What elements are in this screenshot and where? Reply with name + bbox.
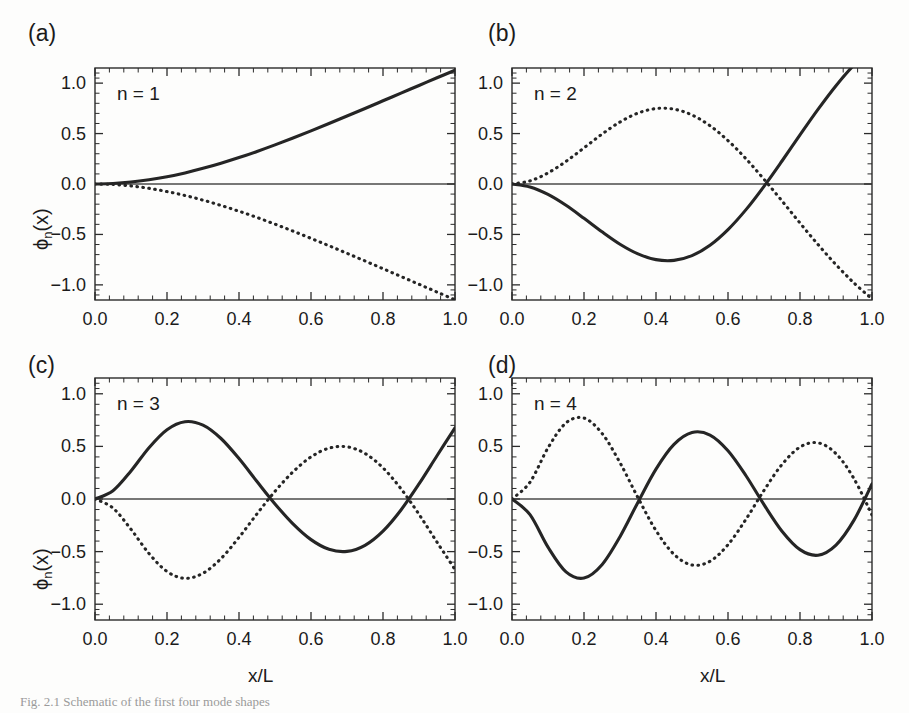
panel-c-plot: 0.00.20.40.60.81.01.00.50.0−0.5−1.0n = 3 — [0, 340, 460, 670]
mode-number-annotation: n = 3 — [117, 393, 160, 414]
curve-solid — [512, 432, 872, 579]
y-tick-label: 0.5 — [478, 436, 503, 456]
x-tick-label: 0.4 — [643, 309, 668, 329]
mode-number-annotation: n = 4 — [534, 393, 577, 414]
x-tick-label: 1.0 — [859, 629, 884, 649]
curve-solid — [512, 48, 872, 260]
x-tick-label: 0.6 — [298, 309, 323, 329]
phi-subscript: n — [40, 232, 55, 239]
curve-dotted — [512, 417, 872, 565]
y-tick-label: −1.0 — [467, 594, 503, 614]
phi-argument: (x) — [30, 548, 52, 571]
y-tick-label: −0.5 — [50, 542, 86, 562]
panel-b-label: (b) — [488, 20, 516, 47]
panel-d-label: (d) — [488, 352, 516, 379]
mode-number-annotation: n = 2 — [534, 83, 577, 104]
phi-symbol: ϕ — [30, 239, 52, 250]
panel-a-ylabel: ϕn(x) — [30, 208, 55, 250]
x-tick-label: 0.8 — [370, 629, 395, 649]
x-tick-label: 0.8 — [370, 309, 395, 329]
x-tick-label: 0.6 — [715, 629, 740, 649]
x-tick-label: 0.4 — [226, 309, 251, 329]
x-tick-label: 0.2 — [571, 309, 596, 329]
x-tick-label: 0.6 — [298, 629, 323, 649]
y-tick-label: −1.0 — [50, 275, 86, 295]
phi-argument: (x) — [30, 208, 52, 231]
y-tick-label: 0.0 — [478, 174, 503, 194]
figure-caption: Fig. 2.1 Schematic of the first four mod… — [20, 694, 270, 713]
y-tick-label: −1.0 — [467, 275, 503, 295]
y-tick-label: 0.0 — [478, 489, 503, 509]
panel-c-xlabel: x/L — [248, 665, 273, 687]
panel-c-ylabel: ϕn(x) — [30, 548, 55, 590]
phi-subscript: n — [40, 572, 55, 579]
y-tick-label: 1.0 — [61, 73, 86, 93]
curve-dotted — [95, 184, 455, 300]
x-tick-label: 0.8 — [787, 629, 812, 649]
panel-c-label: (c) — [28, 352, 55, 379]
panel-d: (d) 0.00.20.40.60.81.01.00.50.0−0.5−1.0n… — [450, 340, 909, 670]
y-tick-label: 1.0 — [478, 73, 503, 93]
x-tick-label: 0.0 — [82, 629, 107, 649]
panel-d-plot: 0.00.20.40.60.81.01.00.50.0−0.5−1.0n = 4 — [450, 340, 909, 670]
x-tick-label: 0.0 — [82, 309, 107, 329]
panel-a-label: (a) — [28, 20, 56, 47]
phi-symbol: ϕ — [30, 579, 52, 590]
y-tick-label: −0.5 — [467, 542, 503, 562]
x-tick-label: 0.4 — [226, 629, 251, 649]
y-tick-label: 0.0 — [61, 174, 86, 194]
y-tick-label: 0.5 — [61, 124, 86, 144]
panel-d-xlabel: x/L — [700, 665, 725, 687]
x-tick-label: 0.6 — [715, 309, 740, 329]
y-tick-label: 0.5 — [61, 436, 86, 456]
panel-b: (b) 0.00.20.40.60.81.01.00.50.0−0.5−1.0n… — [450, 0, 909, 340]
panel-b-plot: 0.00.20.40.60.81.01.00.50.0−0.5−1.0n = 2 — [450, 0, 909, 340]
y-tick-label: −0.5 — [467, 224, 503, 244]
x-tick-label: 0.8 — [787, 309, 812, 329]
mode-number-annotation: n = 1 — [117, 83, 160, 104]
x-tick-label: 0.0 — [499, 629, 524, 649]
y-tick-label: 0.5 — [478, 124, 503, 144]
panel-a: (a) ϕn(x) 0.00.20.40.60.81.01.00.50.0−0.… — [0, 0, 460, 340]
x-tick-label: 0.4 — [643, 629, 668, 649]
x-tick-label: 1.0 — [859, 309, 884, 329]
x-tick-label: 0.2 — [571, 629, 596, 649]
panel-c: (c) ϕn(x) 0.00.20.40.60.81.01.00.50.0−0.… — [0, 340, 460, 670]
y-tick-label: −0.5 — [50, 224, 86, 244]
y-tick-label: −1.0 — [50, 594, 86, 614]
x-tick-label: 0.2 — [154, 309, 179, 329]
figure-canvas: (a) ϕn(x) 0.00.20.40.60.81.01.00.50.0−0.… — [0, 0, 909, 713]
panel-a-plot: 0.00.20.40.60.81.01.00.50.0−0.5−1.0n = 1 — [0, 0, 460, 340]
y-tick-label: 1.0 — [478, 384, 503, 404]
x-tick-label: 0.2 — [154, 629, 179, 649]
y-tick-label: 1.0 — [61, 384, 86, 404]
x-tick-label: 0.0 — [499, 309, 524, 329]
y-tick-label: 0.0 — [61, 489, 86, 509]
